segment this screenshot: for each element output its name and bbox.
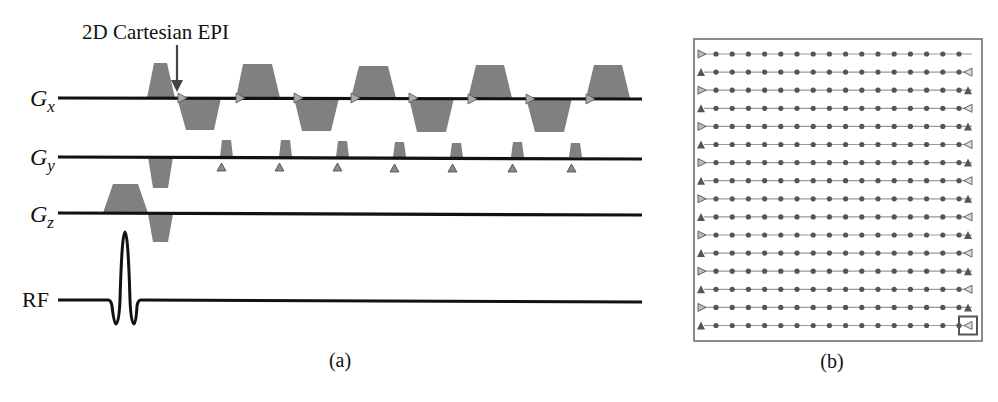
pulse-sequence-panel: 2D Cartesian EPI Gx (22, 20, 642, 372)
kspace-sample-dot (762, 51, 767, 56)
kspace-sample-dot (908, 323, 913, 328)
kspace-sample-dot (827, 232, 832, 237)
kspace-sample-dot (908, 287, 913, 292)
kspace-sample-dot (730, 51, 735, 56)
kspace-sample-dot (827, 287, 832, 292)
kspace-sample-dot (778, 124, 783, 129)
kspace-sample-dot (940, 251, 945, 256)
kspace-sample-dot (892, 287, 897, 292)
kspace-sample-dot (827, 106, 832, 111)
kspace-sample-dot (843, 305, 848, 310)
kspace-sample-dot (827, 70, 832, 75)
kspace-sample-dot (794, 287, 799, 292)
kspace-sample-dot (746, 70, 751, 75)
kspace-sample-dot (859, 323, 864, 328)
kspace-sample-dot (843, 88, 848, 93)
kspace-sample-dot (908, 142, 913, 147)
kspace-sample-dot (892, 106, 897, 111)
kspace-sample-dot (843, 142, 848, 147)
kspace-sample-dot (940, 232, 945, 237)
kspace-sample-dot (762, 196, 767, 201)
kspace-sample-dot (843, 287, 848, 292)
kspace-sample-dot (924, 214, 929, 219)
kspace-sample-dot (859, 124, 864, 129)
kspace-sample-dot (811, 106, 816, 111)
kspace-sample-dot (892, 232, 897, 237)
kspace-sample-dot (956, 142, 961, 147)
kspace-sample-dot (827, 178, 832, 183)
gy-blip-markers (217, 163, 576, 172)
kspace-sample-dot (859, 287, 864, 292)
kspace-sample-dot (859, 70, 864, 75)
kspace-sample-dot (956, 160, 961, 165)
kspace-sample-dot (794, 106, 799, 111)
kspace-sample-dot (956, 178, 961, 183)
kspace-sample-dot (956, 305, 961, 310)
gz-axis (58, 213, 642, 215)
kspace-sample-dot (713, 178, 718, 183)
kspace-sample-dot (908, 196, 913, 201)
kspace-sample-dot (859, 160, 864, 165)
kspace-sample-dot (794, 214, 799, 219)
kspace-sample-dot (924, 232, 929, 237)
kspace-sample-dot (811, 323, 816, 328)
kspace-sample-dot (892, 214, 897, 219)
kspace-sample-dot (859, 142, 864, 147)
kspace-sample-dot (762, 323, 767, 328)
kspace-sample-dot (713, 51, 718, 56)
kspace-sample-dot (892, 251, 897, 256)
kspace-sample-dot (875, 251, 880, 256)
kspace-sample-dot (908, 178, 913, 183)
kspace-sample-dot (875, 214, 880, 219)
kspace-sample-dot (859, 232, 864, 237)
kspace-sample-dot (794, 196, 799, 201)
kspace-sample-dot (730, 178, 735, 183)
kspace-sample-dot (794, 232, 799, 237)
kspace-sample-dot (762, 305, 767, 310)
gy-label: Gy (30, 144, 55, 175)
kspace-sample-dot (730, 70, 735, 75)
kspace-sample-dot (940, 124, 945, 129)
kspace-sample-dot (940, 287, 945, 292)
kspace-sample-dot (730, 251, 735, 256)
kspace-sample-dot (794, 251, 799, 256)
kspace-sample-dot (940, 196, 945, 201)
kspace-sample-dot (827, 214, 832, 219)
kspace-sample-dot (843, 106, 848, 111)
kspace-sample-dot (811, 214, 816, 219)
kspace-sample-dot (843, 51, 848, 56)
kspace-sample-dot (746, 160, 751, 165)
kspace-sample-dot (940, 70, 945, 75)
kspace-sample-dot (762, 214, 767, 219)
kspace-sample-dot (892, 305, 897, 310)
kspace-sample-dot (762, 106, 767, 111)
kspace-sample-dot (746, 88, 751, 93)
kspace-sample-dot (859, 251, 864, 256)
kspace-sample-dot (875, 124, 880, 129)
kspace-sample-dot (794, 305, 799, 310)
rf-sinc-pulse (58, 232, 642, 324)
kspace-sample-dot (843, 214, 848, 219)
kspace-sample-dot (778, 323, 783, 328)
kspace-sample-dot (713, 251, 718, 256)
kspace-sample-dot (778, 51, 783, 56)
kspace-sample-dot (746, 106, 751, 111)
gx-channel: Gx (30, 63, 642, 132)
kspace-sample-dot (908, 106, 913, 111)
kspace-sample-dot (827, 251, 832, 256)
kspace-sample-dot (859, 88, 864, 93)
kspace-sample-dot (794, 70, 799, 75)
kspace-frame (694, 39, 982, 341)
kspace-sample-dot (940, 178, 945, 183)
kspace-sample-dot (875, 88, 880, 93)
kspace-sample-dot (746, 51, 751, 56)
kspace-sample-dot (956, 214, 961, 219)
gx-axis (58, 98, 642, 99)
kspace-sample-dot (778, 178, 783, 183)
kspace-sample-dot (713, 214, 718, 219)
kspace-sample-dot (746, 142, 751, 147)
kspace-sample-dot (730, 106, 735, 111)
kspace-sample-dot (746, 287, 751, 292)
kspace-sample-dot (811, 269, 816, 274)
kspace-sample-dot (843, 178, 848, 183)
